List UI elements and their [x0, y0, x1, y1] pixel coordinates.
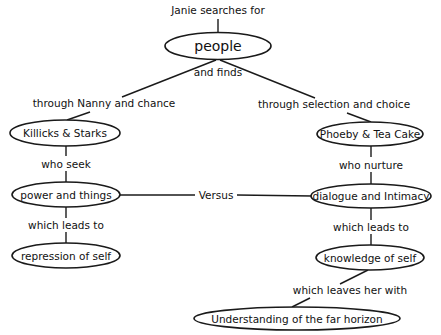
link-through-nanny: through Nanny and chance	[33, 97, 176, 109]
node-repression: repression of self	[12, 243, 120, 268]
link-which-leads-left: which leads to	[28, 219, 104, 231]
node-power: power and things	[12, 182, 120, 207]
link-who-seek: who seek	[41, 158, 91, 170]
concept-map: Janie searches for people Killicks & Sta…	[0, 0, 441, 335]
edge-nanny-killicks	[67, 112, 90, 120]
edge-selection-phoeby	[347, 113, 371, 122]
edge-knowledge-leaves	[340, 270, 368, 284]
node-killicks: Killicks & Starks	[10, 120, 120, 146]
diagram-title: Janie searches for	[170, 4, 265, 16]
link-through-selection: through selection and choice	[258, 98, 410, 110]
link-who-nurture: who nurture	[339, 159, 403, 171]
node-knowledge: knowledge of self	[316, 245, 424, 270]
edge-versus-dialogue	[237, 195, 312, 196]
node-dialogue: dialogue and Intimacy	[311, 184, 431, 208]
node-understanding: Understanding of the far horizon	[194, 307, 400, 330]
node-people: people	[165, 33, 271, 60]
link-which-leaves: which leaves her with	[293, 284, 407, 296]
node-understanding-label: Understanding of the far horizon	[211, 313, 382, 325]
node-phoeby: Phoeby & Tea Cake	[317, 122, 423, 146]
node-killicks-label: Killicks & Starks	[23, 127, 107, 139]
node-dialogue-label: dialogue and Intimacy	[312, 190, 429, 202]
edge-leaves-understanding	[292, 298, 310, 307]
node-power-label: power and things	[20, 189, 111, 201]
link-which-leads-right: which leads to	[333, 221, 409, 233]
link-and-finds: and finds	[194, 66, 243, 78]
node-repression-label: repression of self	[21, 250, 111, 262]
node-knowledge-label: knowledge of self	[324, 252, 417, 264]
node-phoeby-label: Phoeby & Tea Cake	[320, 128, 420, 140]
link-versus: Versus	[199, 189, 234, 201]
node-people-label: people	[194, 38, 241, 54]
